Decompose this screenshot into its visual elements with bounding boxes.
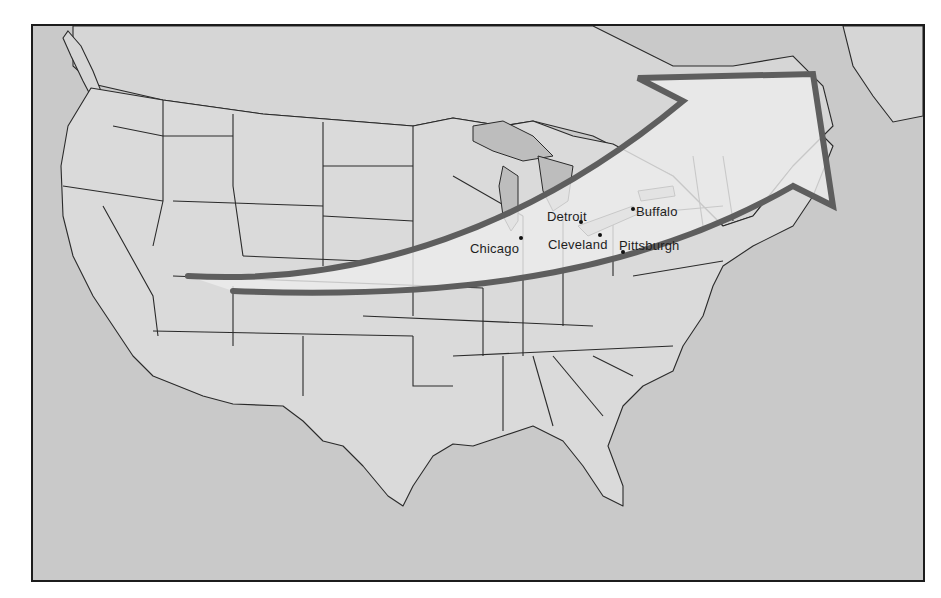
city-dot-buffalo <box>631 207 635 211</box>
city-label-cleveland: Cleveland <box>548 237 608 252</box>
map-canvas <box>33 26 923 580</box>
city-dot-chicago <box>519 236 523 240</box>
city-label-pittsburgh: Pittsburgh <box>619 238 680 253</box>
city-label-detroit: Detroit <box>547 209 587 224</box>
map-frame: Detroit Buffalo Chicago Cleveland Pittsb… <box>31 24 925 582</box>
city-label-buffalo: Buffalo <box>636 204 678 219</box>
city-label-chicago: Chicago <box>470 241 519 256</box>
newfoundland <box>843 26 923 122</box>
